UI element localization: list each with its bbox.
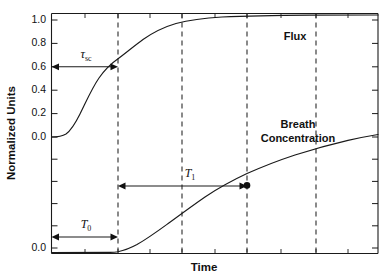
x-axis-title: Time xyxy=(191,261,218,273)
T0-label: T0 xyxy=(81,217,92,233)
y-tick-label: 0.2 xyxy=(31,106,46,118)
y-axis-ticks xyxy=(52,20,58,248)
right-axis-ticks xyxy=(372,20,378,248)
y-axis-title: Normalized Units xyxy=(5,86,17,180)
y-tick-label: 0.0 xyxy=(31,130,46,142)
tau-sc-arrowhead-right xyxy=(111,63,119,70)
T1-arrowhead-left xyxy=(118,183,126,190)
figure-container: 1.0 0.8 0.6 0.4 0.2 0.0 0.0 τsc xyxy=(0,0,391,280)
flux-series-label: Flux xyxy=(284,30,307,42)
flux-curve xyxy=(52,15,379,137)
annotation-tau-sc: τsc xyxy=(52,47,119,70)
y-tick-label: 1.0 xyxy=(31,13,46,25)
y-tick-label: 0.4 xyxy=(31,83,46,95)
tau-sc-arrowhead-left xyxy=(52,63,60,70)
T0-arrowhead-right xyxy=(111,234,119,241)
breath-t1-point-marker xyxy=(244,182,251,189)
y-tick-label: 0.8 xyxy=(31,36,46,48)
y-tick-labels: 1.0 0.8 0.6 0.4 0.2 0.0 0.0 xyxy=(31,13,46,253)
breath-series-label-line1: Breath xyxy=(281,118,316,130)
tau-sc-label: τsc xyxy=(80,47,92,63)
y-tick-label: 0.6 xyxy=(31,60,46,72)
T1-label: T1 xyxy=(185,166,196,182)
annotation-T0: T0 xyxy=(52,217,119,240)
breath-concentration-curve xyxy=(52,135,379,253)
T0-arrowhead-left xyxy=(52,234,60,241)
chart-svg: 1.0 0.8 0.6 0.4 0.2 0.0 0.0 τsc xyxy=(0,0,391,280)
breath-series-label-line2: Concentration xyxy=(261,132,336,144)
y-tick-label-lower: 0.0 xyxy=(31,241,46,253)
